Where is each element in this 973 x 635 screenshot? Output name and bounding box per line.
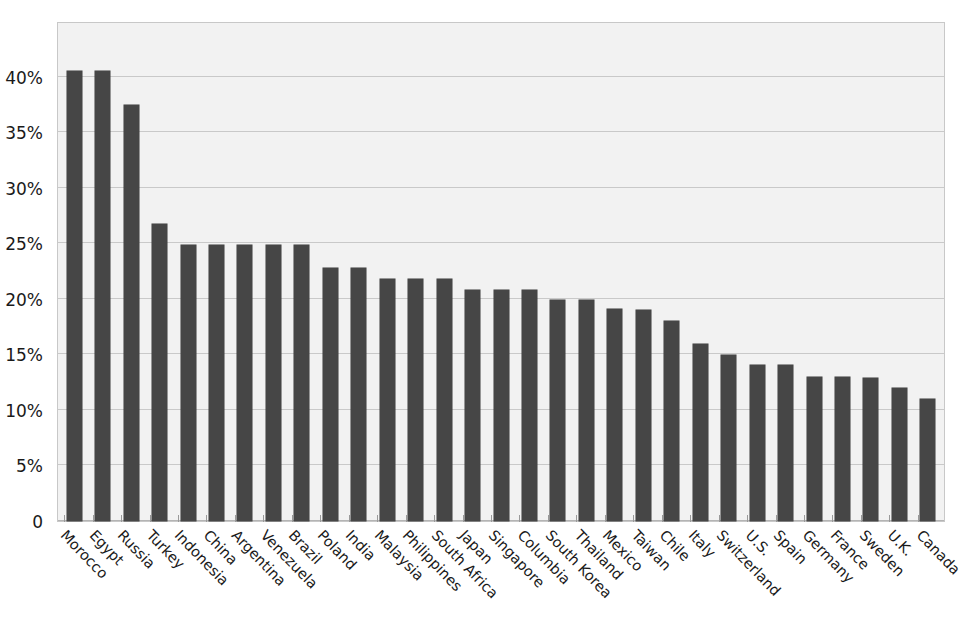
bars-container xyxy=(58,23,944,521)
x-label-slot: Italy xyxy=(686,523,715,635)
x-label-slot: Germany xyxy=(800,523,829,635)
bar-sweden[interactable] xyxy=(863,378,878,521)
x-axis-tick xyxy=(121,515,122,522)
bar-switzerland[interactable] xyxy=(721,355,736,521)
bar-slot xyxy=(60,23,88,521)
bar-slot xyxy=(544,23,572,521)
y-axis-tick-label: 40% xyxy=(5,68,43,88)
x-label-slot: China xyxy=(202,523,231,635)
y-axis: 05%10%15%20%25%30%35%40% xyxy=(0,0,52,535)
bar-egypt[interactable] xyxy=(95,71,110,521)
bar-slot xyxy=(572,23,600,521)
bar-slot xyxy=(231,23,259,521)
bar-spain[interactable] xyxy=(778,365,793,521)
bar-thailand[interactable] xyxy=(579,300,594,521)
bar-slot xyxy=(316,23,344,521)
bar-venezuela[interactable] xyxy=(266,245,281,521)
bar-argentina[interactable] xyxy=(237,245,252,521)
bar-slot xyxy=(202,23,230,521)
x-label-slot: Mexico xyxy=(601,523,630,635)
bar-malaysia[interactable] xyxy=(380,279,395,521)
bar-india[interactable] xyxy=(351,268,366,521)
bar-brazil[interactable] xyxy=(294,245,309,521)
bar-slot xyxy=(743,23,771,521)
bar-u-k[interactable] xyxy=(892,388,907,521)
x-axis-category-label: Italy xyxy=(685,527,718,561)
bar-slot xyxy=(487,23,515,521)
bar-italy[interactable] xyxy=(693,344,708,521)
x-axis-tick xyxy=(491,515,492,522)
x-label-slot: Japan xyxy=(458,523,487,635)
x-axis-category-label: U.K. xyxy=(885,527,917,559)
x-label-slot: Indonesia xyxy=(173,523,202,635)
x-label-slot: U.S. xyxy=(743,523,772,635)
bar-slot xyxy=(145,23,173,521)
x-label-slot: Spain xyxy=(772,523,801,635)
x-axis-tick xyxy=(349,515,350,522)
y-axis-tick-label: 5% xyxy=(16,456,43,476)
x-axis-tick xyxy=(235,515,236,522)
bar-slot xyxy=(345,23,373,521)
bar-morocco[interactable] xyxy=(67,71,82,521)
bar-slot xyxy=(88,23,116,521)
chart-title-sliver: . xyxy=(176,0,181,1)
x-label-slot: Venezuela xyxy=(259,523,288,635)
bar-france[interactable] xyxy=(835,377,850,521)
bar-slot xyxy=(174,23,202,521)
x-axis-tick xyxy=(548,515,549,522)
x-label-slot: Columbia xyxy=(515,523,544,635)
bar-china[interactable] xyxy=(209,245,224,521)
bar-singapore[interactable] xyxy=(494,290,509,521)
x-axis-tick xyxy=(463,515,464,522)
bar-slot xyxy=(288,23,316,521)
bar-turkey[interactable] xyxy=(152,224,167,521)
x-label-slot: Philippines xyxy=(401,523,430,635)
x-label-slot: Switzerland xyxy=(715,523,744,635)
bar-slot xyxy=(686,23,714,521)
x-label-slot: Malaysia xyxy=(373,523,402,635)
x-axis-tick xyxy=(690,515,691,522)
bar-russia[interactable] xyxy=(124,105,139,521)
y-axis-tick-label: 10% xyxy=(5,401,43,421)
bar-slot xyxy=(828,23,856,521)
plot-area xyxy=(57,22,945,522)
x-axis-tick xyxy=(662,515,663,522)
bar-germany[interactable] xyxy=(807,377,822,521)
x-axis-tick xyxy=(178,515,179,522)
x-label-slot: South Africa xyxy=(430,523,459,635)
x-axis-tick xyxy=(263,515,264,522)
x-label-slot: South Korea xyxy=(544,523,573,635)
x-axis-tick xyxy=(292,515,293,522)
bar-philippines[interactable] xyxy=(408,279,423,521)
bar-chile[interactable] xyxy=(664,321,679,521)
bar-slot xyxy=(601,23,629,521)
bar-mexico[interactable] xyxy=(607,309,622,521)
bar-columbia[interactable] xyxy=(522,290,537,521)
bar-slot xyxy=(259,23,287,521)
bar-slot xyxy=(914,23,942,521)
bar-slot xyxy=(714,23,742,521)
bar-u-s[interactable] xyxy=(750,365,765,521)
x-label-slot: Egypt xyxy=(88,523,117,635)
bar-poland[interactable] xyxy=(323,268,338,521)
bar-indonesia[interactable] xyxy=(181,245,196,521)
bar-slot xyxy=(515,23,543,521)
x-label-slot: Argentina xyxy=(230,523,259,635)
x-axis-tick xyxy=(889,515,890,522)
bar-taiwan[interactable] xyxy=(636,310,651,521)
x-axis-tick xyxy=(719,515,720,522)
bar-south-africa[interactable] xyxy=(437,279,452,521)
y-axis-tick-label: 25% xyxy=(5,234,43,254)
x-label-slot: Thailand xyxy=(572,523,601,635)
x-label-slot: Chile xyxy=(658,523,687,635)
x-axis-tick xyxy=(320,515,321,522)
bar-slot xyxy=(885,23,913,521)
x-axis-tick xyxy=(434,515,435,522)
bar-japan[interactable] xyxy=(465,290,480,521)
bar-canada[interactable] xyxy=(920,399,935,521)
x-label-slot: Turkey xyxy=(145,523,174,635)
x-axis-tick xyxy=(747,515,748,522)
bar-south-korea[interactable] xyxy=(550,300,565,521)
y-axis-tick-label: 15% xyxy=(5,345,43,365)
bar-chart: . 05%10%15%20%25%30%35%40% MoroccoEgyptR… xyxy=(0,0,973,635)
